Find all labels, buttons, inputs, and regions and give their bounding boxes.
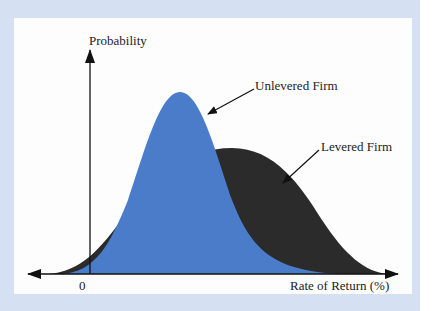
chart-svg: [0, 0, 441, 311]
levered-pointer-arrow: [283, 150, 319, 183]
x-axis-label: Rate of Return (%): [290, 279, 389, 292]
unlevered-pointer-arrow: [208, 89, 254, 114]
levered-firm-label: Levered Firm: [321, 140, 392, 153]
origin-label: 0: [79, 279, 86, 292]
y-axis-label: Probability: [89, 34, 147, 47]
unlevered-firm-label: Unlevered Firm: [255, 79, 338, 92]
